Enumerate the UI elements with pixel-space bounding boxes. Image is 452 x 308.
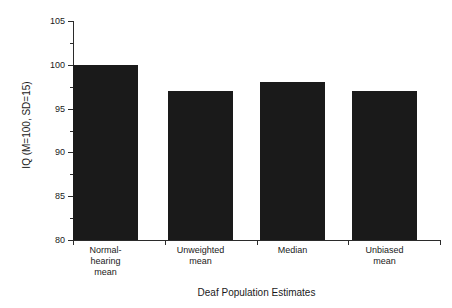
y-axis-tick: [68, 21, 73, 22]
y-axis-tick-label: 80: [55, 236, 65, 245]
x-axis-category-label: Median: [247, 245, 338, 256]
x-axis-category-label: Unbiased mean: [339, 245, 430, 267]
bar-unbiased-mean: [352, 91, 417, 240]
y-axis-tick-label: 100: [50, 61, 65, 70]
y-axis-tick-label: 90: [55, 148, 65, 157]
x-axis-title: Deaf Population Estimates: [73, 287, 440, 299]
y-axis-title: IQ (M=100, SD=15): [18, 5, 36, 245]
y-axis-tick-label: 95: [55, 105, 65, 114]
bar-unweighted-mean: [168, 91, 233, 240]
bar-chart: IQ (M=100, SD=15) 105 100 95 90 85 80: [0, 0, 452, 308]
x-axis-category-label: Unweighted mean: [155, 245, 246, 267]
bar-normal-hearing-mean: [73, 65, 138, 240]
x-axis-tick: [440, 240, 441, 245]
y-axis-tick-label: 85: [55, 192, 65, 201]
y-axis-minor-tick: [70, 43, 73, 44]
plot-area: 105 100 95 90 85 80 Normal- hearing mean…: [73, 21, 440, 240]
x-axis-category-label: Normal- hearing mean: [60, 245, 151, 278]
y-axis-tick-label: 105: [50, 17, 65, 26]
bar-median: [260, 82, 325, 240]
